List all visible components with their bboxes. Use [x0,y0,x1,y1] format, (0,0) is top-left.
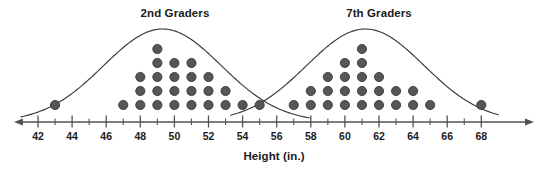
data-dot [136,86,145,95]
data-dot [204,72,213,81]
data-dot [153,58,162,67]
x-axis-label: Height (in.) [174,150,374,162]
data-dot [119,100,128,109]
data-dot [357,44,366,53]
data-dot [170,72,179,81]
x-tick-label: 64 [401,130,425,142]
data-dot [340,86,349,95]
data-dot [409,100,418,109]
axis-arrow-right-icon [525,118,534,125]
x-tick-label: 50 [162,130,186,142]
data-dot [187,58,196,67]
x-tick-label: 58 [299,130,323,142]
x-tick-label: 56 [265,130,289,142]
data-dot [238,100,247,109]
data-dot [340,72,349,81]
dot-plot-canvas [0,0,548,174]
data-dot [391,100,400,109]
data-dot [323,86,332,95]
data-dot [153,86,162,95]
data-dot [170,58,179,67]
data-dot [357,86,366,95]
x-tick-label: 62 [367,130,391,142]
data-dot [204,86,213,95]
dot-plot-figure: 2nd Graders 7th Graders Height (in.) 424… [0,0,548,174]
data-dot [391,86,400,95]
data-dot [323,100,332,109]
dot-stack-group-1 [50,44,264,109]
data-dot [221,86,230,95]
data-dot [170,100,179,109]
axis-arrow-left-icon [14,118,23,125]
data-dot [340,100,349,109]
x-tick-label: 66 [435,130,459,142]
data-dot [409,86,418,95]
data-dot [374,72,383,81]
data-dot [374,86,383,95]
data-dot [357,100,366,109]
x-tick-label: 44 [60,130,84,142]
x-tick-label: 46 [94,130,118,142]
data-dot [357,72,366,81]
data-dot [204,100,213,109]
data-dot [221,100,230,109]
data-dot [477,100,486,109]
data-dot [426,100,435,109]
data-dot [170,86,179,95]
x-tick-label: 42 [26,130,50,142]
data-dot [136,100,145,109]
data-dot [255,100,264,109]
x-tick-label: 60 [333,130,357,142]
data-dot [153,100,162,109]
data-dot [153,72,162,81]
data-dot [50,100,59,109]
data-dot [153,44,162,53]
distribution-curve-1 [21,29,309,118]
x-tick-label: 48 [128,130,152,142]
group-title-7th-graders: 7th Graders [317,7,441,20]
data-dot [357,58,366,67]
data-dot [306,86,315,95]
x-tick-label: 52 [197,130,221,142]
data-dot [340,58,349,67]
data-dot [323,72,332,81]
data-dot [187,86,196,95]
data-dot [306,100,315,109]
number-line-axis-layer [14,116,534,128]
data-dot [289,100,298,109]
x-tick-label: 54 [231,130,255,142]
data-dot [136,72,145,81]
group-title-2nd-graders: 2nd Graders [113,7,237,20]
data-dot [187,100,196,109]
x-tick-label: 68 [469,130,493,142]
data-dot [374,100,383,109]
data-dot [187,72,196,81]
